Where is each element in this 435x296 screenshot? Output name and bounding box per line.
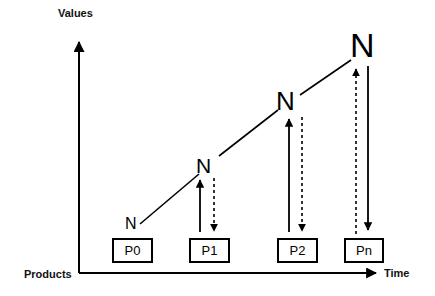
- product-box-p1: P1: [189, 238, 230, 263]
- product-box-pn: Pn: [344, 238, 384, 263]
- product-box-p0-label: P0: [125, 244, 141, 257]
- y-axis-label: Values: [58, 7, 93, 19]
- diagram-canvas: Values Products Time N N N N P0 P1 P2 Pn: [0, 0, 435, 296]
- origin-axis-label: Products: [24, 268, 72, 280]
- node-letter-n-p0: N: [125, 216, 137, 232]
- trend-segment-p1-p2: [219, 110, 278, 156]
- product-box-p1-label: P1: [202, 244, 218, 257]
- node-letter-n-p2: N: [276, 88, 295, 114]
- product-box-p2-label: P2: [290, 244, 306, 257]
- product-box-p0: P0: [112, 238, 153, 263]
- product-box-pn-label: Pn: [356, 244, 372, 257]
- node-letter-n-p1: N: [196, 155, 211, 176]
- product-box-p2: P2: [277, 238, 318, 263]
- x-axis-label: Time: [384, 267, 409, 279]
- trend-segment-p0-p1: [140, 174, 199, 224]
- trend-segment-p2-pn: [300, 60, 351, 95]
- node-letter-n-pn: N: [350, 28, 375, 62]
